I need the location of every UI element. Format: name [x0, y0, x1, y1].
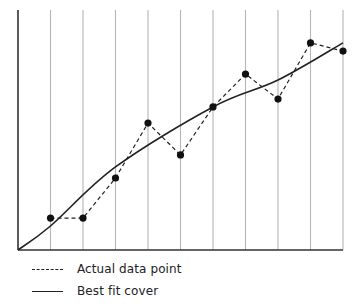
data-point-marker-icon — [177, 151, 184, 158]
dashed-line-swatch-icon — [32, 269, 63, 270]
solid-line-swatch-icon — [32, 291, 63, 292]
legend-actual-label: Actual data point — [77, 262, 182, 276]
data-point-marker-icon — [339, 47, 346, 54]
vertical-gridlines — [51, 10, 344, 250]
legend-fit: Best fit cover — [32, 284, 158, 298]
data-point-marker-icon — [242, 70, 249, 77]
data-point-marker-icon — [144, 119, 151, 126]
chart-plot-area — [0, 0, 356, 260]
data-point-marker-icon — [209, 103, 216, 110]
legend-actual: Actual data point — [32, 262, 182, 276]
data-point-marker-icon — [112, 174, 119, 181]
data-point-marker-icon — [47, 214, 54, 221]
data-point-marker-icon — [79, 214, 86, 221]
data-point-marker-icon — [307, 39, 314, 46]
data-point-marker-icon — [274, 95, 281, 102]
legend-fit-label: Best fit cover — [77, 284, 158, 298]
